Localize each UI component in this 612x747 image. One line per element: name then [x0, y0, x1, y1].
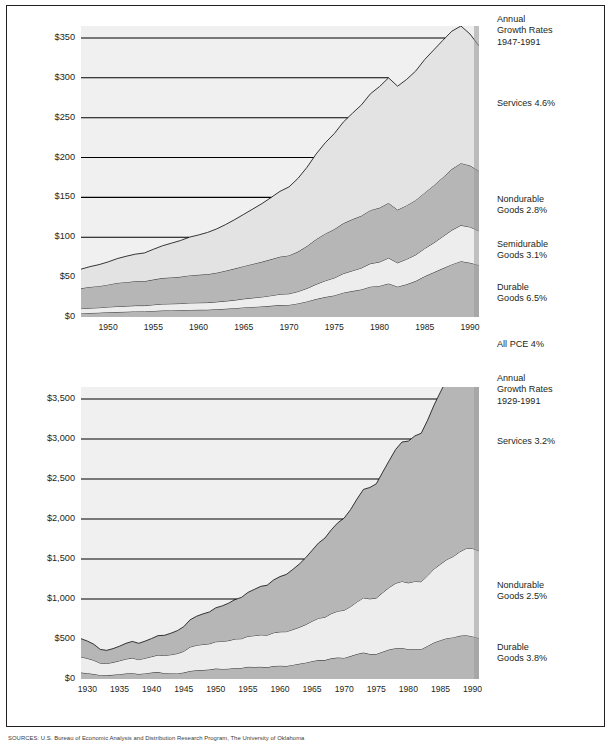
- y-tick-label: $2,500: [19, 473, 75, 483]
- chart-panel-united-states: PCE (in billions) United States $0$500$1…: [7, 369, 604, 735]
- x-tick-label: 1980: [358, 322, 402, 332]
- plot-area-united-states: [81, 387, 479, 679]
- x-tick-label: 1990: [448, 322, 492, 332]
- legend-label-semidurable-canada: Semidurable Goods 3.1%: [497, 239, 548, 262]
- chart-panel-canada: PCE (in billions) Canada $0$50$100$150$2…: [7, 6, 604, 361]
- y-tick-label: $300: [19, 72, 75, 82]
- x-tick-label: 1990: [451, 684, 495, 694]
- y-tick-label: $500: [19, 633, 75, 643]
- source-note: SOURCES: U.S. Bureau of Economic Analysi…: [8, 735, 304, 741]
- y-tick-label: $1,000: [19, 593, 75, 603]
- x-tick-label: 1955: [131, 322, 175, 332]
- y-tick-label: $3,500: [19, 393, 75, 403]
- y-tick-label: $50: [19, 271, 75, 281]
- legend-label-all-pce-canada: All PCE 4%: [497, 339, 544, 350]
- y-tick-label: $100: [19, 231, 75, 241]
- x-tick-label: 1985: [403, 322, 447, 332]
- legend-label-services-canada: Services 4.6%: [497, 98, 555, 109]
- x-tick-label: 1960: [177, 322, 221, 332]
- x-tick-label: 1950: [86, 322, 130, 332]
- y-tick-label: $250: [19, 112, 75, 122]
- legend-label-durable-united-states: Durable Goods 3.8%: [497, 642, 547, 665]
- growth-rates-header-united-states: Annual Growth Rates 1929-1991: [497, 373, 553, 407]
- y-tick-label: $0: [19, 673, 75, 683]
- y-tick-label: $350: [19, 32, 75, 42]
- plot-area-canada: [81, 26, 479, 317]
- legend-label-durable-canada: Durable Goods 6.5%: [497, 282, 547, 305]
- x-tick-label: 1970: [267, 322, 311, 332]
- y-tick-label: $1,500: [19, 553, 75, 563]
- legend-label-services-united-states: Services 3.2%: [497, 436, 555, 447]
- y-tick-label: $0: [19, 311, 75, 321]
- y-tick-label: $2,000: [19, 513, 75, 523]
- y-tick-label: $200: [19, 152, 75, 162]
- growth-rates-header-canada: Annual Growth Rates 1947-1991: [497, 14, 553, 48]
- legend-label-nondurable-united-states: Nondurable Goods 2.5%: [497, 580, 547, 603]
- y-tick-label: $3,000: [19, 433, 75, 443]
- x-tick-label: 1975: [312, 322, 356, 332]
- figure-frame: PCE (in billions) Canada $0$50$100$150$2…: [6, 5, 605, 727]
- legend-label-nondurable-canada: Nondurable Goods 2.8%: [497, 194, 547, 217]
- y-tick-label: $150: [19, 191, 75, 201]
- x-tick-label: 1965: [222, 322, 266, 332]
